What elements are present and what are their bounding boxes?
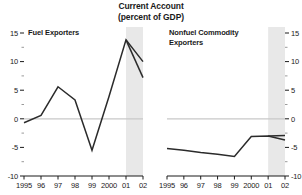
x-tick-label: 02 [139, 181, 147, 190]
x-tick-label: 2000 [243, 181, 259, 190]
y-tick-label: 10 [291, 57, 299, 66]
forecast-shaded-band [126, 27, 143, 176]
x-tick-label: 99 [88, 181, 96, 190]
y-tick-label: 5 [14, 86, 18, 95]
forecast-shaded-band [268, 27, 285, 176]
y-tick-label: 10 [10, 57, 18, 66]
x-tick-label: 96 [37, 181, 45, 190]
panel-fuel-exporters: Fuel Exporters 151050-5-1019959697989920… [0, 0, 151, 195]
x-tick-label: 1995 [16, 181, 32, 190]
y-tick-label: -10 [291, 172, 301, 181]
plot-area-fuel-exporters: 151050-5-1019959697989920000102 [0, 0, 151, 195]
series-current-account-main [167, 136, 285, 157]
y-tick-label: 15 [291, 29, 299, 38]
x-tick-label: 2000 [101, 181, 117, 190]
x-tick-label: 96 [180, 181, 188, 190]
y-tick-label: 5 [291, 86, 295, 95]
y-tick-label: 0 [291, 115, 295, 124]
y-tick-label: -5 [12, 143, 18, 152]
plot-area-nonfuel-commodity-exporters: 151050-5-1019959697989920000102 [151, 0, 302, 195]
y-tick-label: -10 [8, 172, 18, 181]
chart-figure: Current Account (percent of GDP) Fuel Ex… [0, 0, 302, 195]
x-tick-label: 98 [71, 181, 79, 190]
panel-nonfuel-commodity-exporters: Nonfuel Commodity Exporters 151050-5-101… [151, 0, 302, 195]
x-tick-label: 98 [214, 181, 222, 190]
x-tick-label: 1995 [159, 181, 175, 190]
y-tick-label: -5 [291, 143, 297, 152]
x-tick-label: 01 [264, 181, 272, 190]
x-tick-label: 97 [54, 181, 62, 190]
x-tick-label: 99 [230, 181, 238, 190]
series-current-account-main [24, 40, 143, 150]
series-current-account-alt [268, 135, 285, 136]
x-tick-label: 97 [197, 181, 205, 190]
x-tick-label: 01 [122, 181, 130, 190]
x-tick-label: 02 [281, 181, 289, 190]
y-tick-label: 0 [14, 115, 18, 124]
y-tick-label: 15 [10, 29, 18, 38]
